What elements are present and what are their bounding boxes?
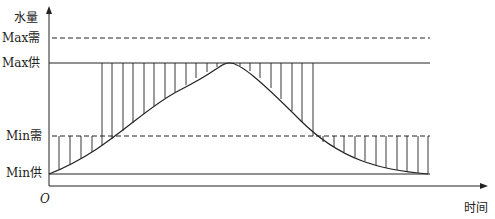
origin-label: O [40,192,50,206]
min-supply-label: Min供 [6,166,42,180]
water-supply-demand-diagram [0,0,495,219]
hatching [59,63,428,174]
max-supply-label: Max供 [2,56,40,70]
min-demand-label: Min需 [6,129,42,143]
x-axis-arrow-icon [480,183,488,189]
y-axis-label: 水量 [14,11,38,25]
y-axis-arrow-icon [46,6,52,14]
demand-curve [49,63,428,174]
x-axis-label: 时间 [464,201,488,215]
max-demand-label: Max需 [2,31,40,45]
